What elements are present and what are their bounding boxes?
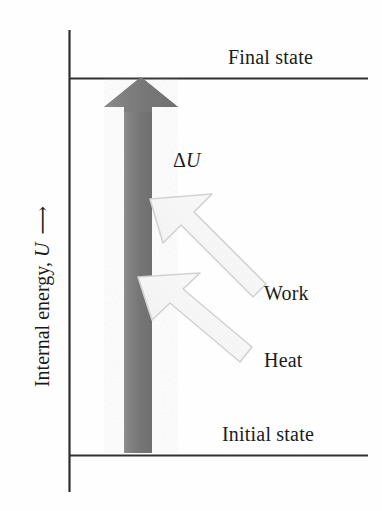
internal-energy-change-arrow xyxy=(104,77,178,453)
heat-label: Heat xyxy=(264,350,303,370)
work-label: Work xyxy=(264,283,309,303)
initial-state-label: Initial state xyxy=(222,424,314,444)
y-axis-title: Internal energy, U ⟶ xyxy=(30,137,54,457)
energy-diagram-figure: Internal energy, U ⟶ Final state Initial… xyxy=(0,0,382,511)
heat-input-arrow xyxy=(138,273,252,362)
right-arrow-icon: ⟶ xyxy=(31,207,53,238)
y-axis-title-variable: U xyxy=(31,243,53,257)
final-state-label: Final state xyxy=(228,47,313,67)
delta-u-variable: U xyxy=(186,149,201,171)
delta-u-label: ΔU xyxy=(173,150,201,170)
diagram-canvas xyxy=(0,0,382,511)
y-axis-title-text: Internal energy, xyxy=(31,262,53,387)
delta-glyph: Δ xyxy=(173,149,186,171)
